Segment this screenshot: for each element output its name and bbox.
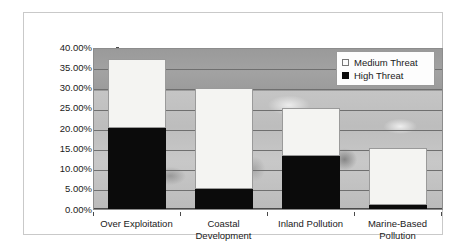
- bar-segment-medium-threat[interactable]: [108, 59, 166, 128]
- bar-group-coastal-development[interactable]: [195, 88, 253, 210]
- legend-label: High Threat: [354, 70, 403, 81]
- x-tick-label-line: Over Exploitation: [93, 218, 180, 230]
- x-tick-label-inland-pollution: Inland Pollution: [267, 218, 354, 230]
- x-tick-mark: [441, 212, 442, 216]
- x-tick-label-line: Marine-Based: [354, 218, 441, 230]
- bar-group-inland-pollution[interactable]: [282, 108, 340, 209]
- x-tick-mark: [93, 212, 94, 216]
- bar-group-marine-based-pollution[interactable]: [369, 148, 427, 209]
- bar-segment-high-threat[interactable]: [195, 189, 253, 209]
- legend-item-medium-threat[interactable]: Medium Threat: [342, 56, 429, 69]
- medium-threat-swatch-icon: [342, 59, 349, 66]
- x-tick-label-coastal-development: Coastal Development: [180, 218, 267, 242]
- bar-segment-high-threat[interactable]: [282, 156, 340, 209]
- screenshot-root: 40.00% 35.00% 30.00% 25.00% 20.00% 15.00…: [0, 0, 466, 247]
- y-axis: 40.00% 35.00% 30.00% 25.00% 20.00% 15.00…: [50, 41, 92, 217]
- y-tick-label: 0.00%: [65, 205, 92, 215]
- high-threat-swatch-icon: [342, 72, 349, 79]
- x-tick-mark: [180, 212, 181, 216]
- y-tick-label: 40.00%: [60, 43, 92, 53]
- x-tick-label-line: Coastal: [180, 218, 267, 230]
- bar-segment-medium-threat[interactable]: [369, 148, 427, 205]
- y-tick-label: 15.00%: [60, 144, 92, 154]
- bar-segment-high-threat[interactable]: [369, 205, 427, 209]
- y-tick-label: 35.00%: [60, 63, 92, 73]
- bar-segment-high-threat[interactable]: [108, 128, 166, 209]
- x-tick-mark: [354, 212, 355, 216]
- legend: Medium Threat High Threat: [336, 51, 435, 86]
- x-tick-mark: [267, 212, 268, 216]
- y-tick-label: 5.00%: [65, 184, 92, 194]
- bar-segment-medium-threat[interactable]: [282, 108, 340, 157]
- x-tick-label-line: Pollution: [354, 230, 441, 242]
- x-tick-label-over-exploitation: Over Exploitation: [93, 218, 180, 230]
- y-tick-label: 10.00%: [60, 164, 92, 174]
- chart-frame: 40.00% 35.00% 30.00% 25.00% 20.00% 15.00…: [23, 12, 443, 235]
- legend-label: Medium Threat: [354, 57, 418, 68]
- x-axis: Over Exploitation Coastal Development In…: [93, 212, 443, 246]
- y-tick-label: 30.00%: [60, 83, 92, 93]
- bar-group-over-exploitation[interactable]: [108, 59, 166, 209]
- x-tick-label-marine-based-pollution: Marine-Based Pollution: [354, 218, 441, 242]
- x-tick-label-line: Inland Pollution: [267, 218, 354, 230]
- legend-item-high-threat[interactable]: High Threat: [342, 69, 429, 82]
- x-tick-label-line: Development: [180, 230, 267, 242]
- y-tick-label: 25.00%: [60, 103, 92, 113]
- y-tick-label: 20.00%: [60, 124, 92, 134]
- bar-segment-medium-threat[interactable]: [195, 88, 253, 189]
